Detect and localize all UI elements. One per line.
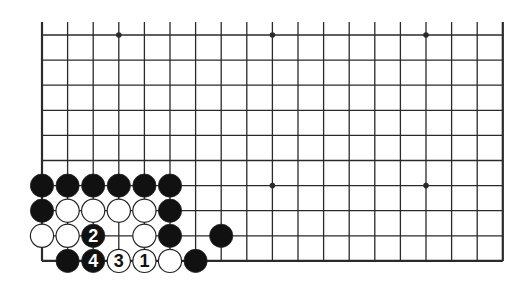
black-stone — [56, 249, 79, 272]
white-stone — [133, 224, 156, 247]
grid-lines — [42, 22, 503, 261]
move-number: 4 — [88, 251, 98, 271]
white-stone: 3 — [107, 249, 130, 272]
star-point-icon — [116, 32, 122, 38]
white-stone — [30, 224, 53, 247]
white-stone: 1 — [133, 249, 156, 272]
black-stone — [158, 224, 181, 247]
white-stone — [56, 224, 79, 247]
move-number: 2 — [88, 226, 98, 246]
black-stone — [184, 249, 207, 272]
star-point-icon — [270, 183, 276, 189]
black-stone — [158, 199, 181, 222]
move-number: 1 — [139, 251, 149, 271]
white-stone — [158, 249, 181, 272]
star-point-icon — [270, 32, 276, 38]
star-point-icon — [423, 32, 429, 38]
go-board: 2431 — [0, 0, 531, 289]
stones: 2431 — [30, 174, 232, 273]
black-stone — [82, 174, 105, 197]
white-stone — [82, 199, 105, 222]
black-stone — [158, 174, 181, 197]
black-stone — [210, 224, 233, 247]
black-stone — [107, 174, 130, 197]
white-stone — [56, 199, 79, 222]
black-stone — [30, 199, 53, 222]
white-stone — [107, 199, 130, 222]
black-stone — [56, 174, 79, 197]
move-number: 3 — [114, 251, 124, 271]
star-point-icon — [423, 183, 429, 189]
black-stone: 4 — [82, 249, 105, 272]
black-stone: 2 — [82, 224, 105, 247]
black-stone — [30, 174, 53, 197]
white-stone — [133, 199, 156, 222]
black-stone — [133, 174, 156, 197]
